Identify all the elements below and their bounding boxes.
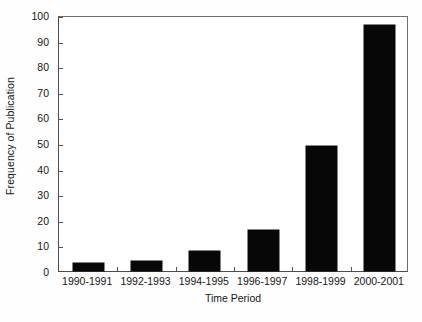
y-axis-tick-mark — [59, 119, 63, 120]
x-axis-tick-label: 1990-1991 — [62, 275, 112, 287]
x-axis-tick-label: 1996-1997 — [237, 275, 287, 287]
y-axis-tick-mark — [59, 145, 63, 146]
y-axis-tick-label: 40 — [37, 165, 49, 175]
y-axis-tick-label: 100 — [31, 11, 49, 21]
x-axis-tick-mark — [351, 267, 352, 271]
y-axis-tick-label: 60 — [37, 113, 49, 123]
x-axis-tick-mark — [176, 267, 177, 271]
x-axis-tick-labels: 1990-19911992-19931994-19951996-19971998… — [58, 275, 408, 291]
y-axis-tick-mark — [59, 94, 63, 95]
y-axis-tick-label: 30 — [37, 190, 49, 200]
x-axis-tick-label: 1998-1999 — [295, 275, 345, 287]
x-axis-tick-mark — [292, 267, 293, 271]
y-axis-tick-labels: 0102030405060708090100 — [20, 0, 53, 282]
y-axis-tick-label: 50 — [37, 139, 49, 149]
y-axis-tick-mark — [59, 43, 63, 44]
y-axis-tick-label: 70 — [37, 88, 49, 98]
x-axis-tick-label: 1992-1993 — [120, 275, 170, 287]
bar — [306, 146, 337, 271]
bar — [189, 251, 220, 271]
y-axis-tick-label: 90 — [37, 37, 49, 47]
y-axis-tick-mark — [59, 171, 63, 172]
x-axis-title: Time Period — [58, 292, 408, 304]
y-axis-title: Frequency of Publication — [0, 0, 20, 272]
bar-series — [59, 17, 407, 271]
y-axis-tick-mark — [59, 17, 63, 18]
y-axis-tick-label: 20 — [37, 216, 49, 226]
y-axis-tick-mark — [59, 222, 63, 223]
y-axis-title-text: Frequency of Publication — [4, 77, 16, 195]
bar — [364, 25, 395, 271]
y-axis-tick-mark — [59, 68, 63, 69]
x-axis-tick-mark — [234, 267, 235, 271]
y-axis-tick-label: 10 — [37, 241, 49, 251]
x-axis-tick-label: 2000-2001 — [354, 275, 404, 287]
plot-area — [58, 16, 408, 272]
x-axis-tick-mark — [117, 267, 118, 271]
y-axis-tick-mark — [59, 196, 63, 197]
bar — [131, 261, 162, 271]
x-axis-tick-label: 1994-1995 — [179, 275, 229, 287]
y-axis-tick-label: 80 — [37, 62, 49, 72]
bar — [73, 263, 104, 271]
y-axis-tick-mark — [59, 247, 63, 248]
y-axis-tick-label: 0 — [43, 267, 49, 277]
bar — [248, 230, 279, 271]
bar-chart-figure: Frequency of Publication 010203040506070… — [0, 0, 422, 322]
